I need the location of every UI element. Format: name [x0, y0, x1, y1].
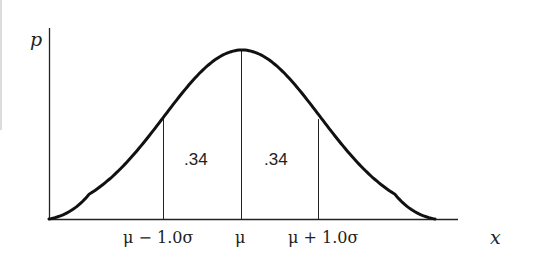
- normal-curve-figure: p x .34 .34 μ − 1.0σ μ μ + 1.0σ: [0, 0, 536, 259]
- tick-label-plus-sigma: μ + 1.0σ: [288, 228, 358, 247]
- tick-label-minus-sigma: μ − 1.0σ: [123, 228, 193, 247]
- y-axis-label: p: [30, 28, 42, 50]
- x-axis-label: x: [490, 226, 501, 248]
- region-label-right: .34: [264, 150, 288, 169]
- region-label-left: .34: [184, 150, 208, 169]
- tick-label-mean: μ: [235, 228, 245, 247]
